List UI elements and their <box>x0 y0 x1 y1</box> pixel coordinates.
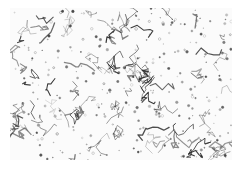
grain-boundary-texture <box>10 8 232 160</box>
micrograph-image <box>10 8 232 160</box>
